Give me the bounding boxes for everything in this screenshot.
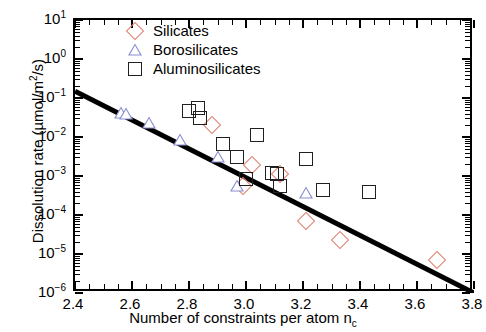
x-tick-minor-top xyxy=(431,20,432,25)
x-tick-minor-top xyxy=(474,20,475,25)
x-tick-label: 2.4 xyxy=(63,296,84,311)
x-tick-minor xyxy=(389,284,390,289)
x-tick-label: 2.6 xyxy=(120,296,141,311)
x-tick-minor xyxy=(360,284,361,289)
legend-label: Aluminosilicates xyxy=(153,61,261,76)
y-tick-minor xyxy=(75,141,80,142)
diamond-icon xyxy=(125,21,145,40)
x-tick-minor xyxy=(118,284,119,289)
y-tick-minor-right xyxy=(465,47,470,48)
x-tick-minor-top xyxy=(374,20,375,25)
x-tick-minor xyxy=(161,284,162,289)
x-tick-minor xyxy=(146,284,147,289)
y-tick-label: 10−2 xyxy=(18,128,66,143)
y-tick-minor xyxy=(75,256,80,257)
y-tick-minor xyxy=(75,71,80,72)
legend-item[interactable]: Borosilicates xyxy=(125,40,261,59)
legend-item[interactable]: Aluminosilicates xyxy=(125,59,261,78)
x-tick-minor-top xyxy=(303,20,304,25)
triangle-icon xyxy=(125,40,145,59)
y-tick-label: 10−3 xyxy=(18,167,66,182)
x-tick-minor-top xyxy=(460,20,461,25)
x-tick-minor xyxy=(346,284,347,289)
y-tick-minor xyxy=(75,235,80,236)
y-tick-minor-right xyxy=(465,157,470,158)
x-tick-minor xyxy=(417,284,418,289)
y-tick-minor-right xyxy=(465,118,470,119)
x-tick-label: 3.6 xyxy=(405,296,426,311)
y-tick-minor xyxy=(75,40,80,41)
y-tick-label: 101 xyxy=(18,11,66,26)
x-tick-minor-top xyxy=(275,20,276,25)
x-axis-title-sub: c xyxy=(352,318,357,329)
y-tick-major-right xyxy=(462,292,470,294)
x-tick-minor xyxy=(460,284,461,289)
y-tick-minor xyxy=(75,203,80,204)
y-tick-minor xyxy=(75,224,80,225)
x-tick-minor xyxy=(175,284,176,289)
x-tick-minor xyxy=(275,284,276,289)
x-tick-minor xyxy=(260,284,261,289)
x-tick-minor-top xyxy=(317,20,318,25)
x-tick-minor xyxy=(203,284,204,289)
x-tick-minor xyxy=(303,284,304,289)
y-tick-minor-right xyxy=(465,188,470,189)
y-tick-major-right xyxy=(462,97,470,99)
y-tick-minor xyxy=(75,219,80,220)
y-tick-minor-right xyxy=(465,139,470,140)
y-tick-minor-right xyxy=(465,143,470,144)
x-tick-minor xyxy=(374,284,375,289)
y-tick-minor xyxy=(75,86,80,87)
y-tick-minor xyxy=(75,65,80,66)
y-tick-minor-right xyxy=(465,61,470,62)
y-tick-minor xyxy=(75,149,80,150)
chart-figure: Dissolution rate (µmol/m2/s) Number of c… xyxy=(0,0,486,332)
x-tick-minor-top xyxy=(332,20,333,25)
y-tick-major xyxy=(75,175,83,177)
x-tick-minor xyxy=(403,284,404,289)
y-tick-minor xyxy=(75,217,80,218)
y-tick-minor xyxy=(75,102,80,103)
y-tick-minor-right xyxy=(465,107,470,108)
legend-item[interactable]: Silicates xyxy=(125,21,261,40)
x-tick-minor xyxy=(474,284,475,289)
x-tick-minor-top xyxy=(389,20,390,25)
y-tick-minor xyxy=(75,61,80,62)
x-tick-minor xyxy=(89,284,90,289)
y-tick-minor-right xyxy=(465,149,470,150)
square-icon xyxy=(125,59,145,78)
y-tick-minor xyxy=(75,153,80,154)
y-tick-minor xyxy=(75,36,80,37)
y-tick-minor-right xyxy=(465,29,470,30)
x-tick-minor xyxy=(317,284,318,289)
y-tick-minor-right xyxy=(465,258,470,259)
y-tick-minor xyxy=(75,107,80,108)
y-tick-minor-right xyxy=(465,79,470,80)
y-tick-minor xyxy=(75,22,80,23)
legend: SilicatesBorosilicatesAluminosilicates xyxy=(125,21,261,78)
y-tick-minor-right xyxy=(465,146,470,147)
y-tick-minor-right xyxy=(465,274,470,275)
y-tick-minor-right xyxy=(465,219,470,220)
y-tick-major xyxy=(75,292,83,294)
x-tick-minor xyxy=(332,284,333,289)
y-tick-minor-right xyxy=(465,260,470,261)
x-tick-minor xyxy=(431,284,432,289)
y-tick-minor xyxy=(75,260,80,261)
y-tick-minor xyxy=(75,164,80,165)
y-tick-major-right xyxy=(462,253,470,255)
y-tick-minor xyxy=(75,258,80,259)
y-tick-minor-right xyxy=(465,32,470,33)
y-tick-minor xyxy=(75,104,80,105)
y-tick-minor-right xyxy=(465,75,470,76)
y-tick-minor xyxy=(75,221,80,222)
y-tick-minor-right xyxy=(465,63,470,64)
y-tick-minor xyxy=(75,32,80,33)
x-tick-minor xyxy=(104,284,105,289)
y-tick-minor xyxy=(75,196,80,197)
y-tick-minor-right xyxy=(465,40,470,41)
y-tick-label: 10−5 xyxy=(18,245,66,260)
y-tick-minor xyxy=(75,227,80,228)
y-tick-minor xyxy=(75,182,80,183)
x-tick-minor xyxy=(246,284,247,289)
